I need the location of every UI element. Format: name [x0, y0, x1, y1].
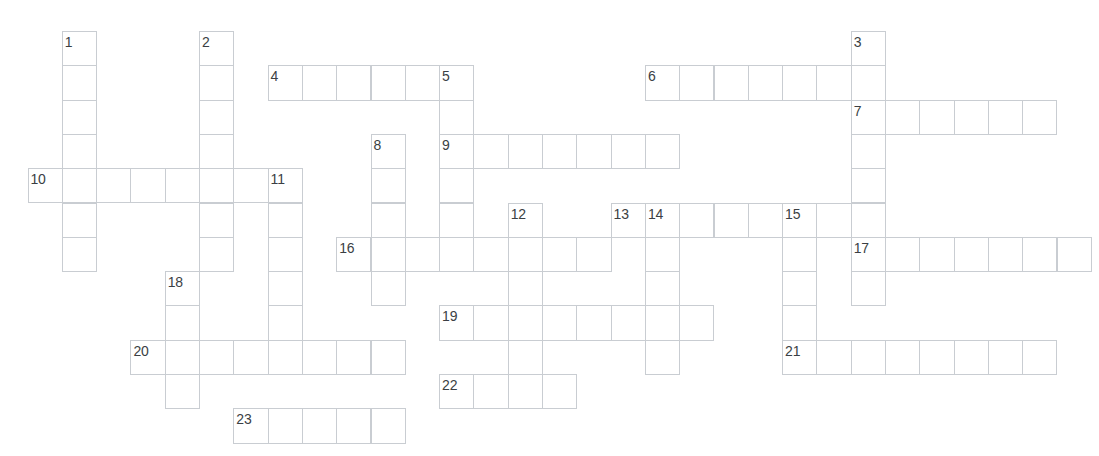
grid-cell[interactable]	[165, 340, 200, 375]
grid-cell[interactable]	[439, 134, 474, 169]
grid-cell[interactable]	[199, 237, 234, 272]
grid-cell[interactable]	[885, 340, 920, 375]
grid-cell[interactable]	[439, 65, 474, 100]
grid-cell[interactable]	[748, 65, 783, 100]
grid-cell[interactable]	[268, 408, 303, 443]
grid-cell[interactable]	[542, 374, 577, 409]
grid-cell[interactable]	[919, 340, 954, 375]
grid-cell[interactable]	[439, 305, 474, 340]
grid-cell[interactable]	[371, 134, 406, 169]
grid-cell[interactable]	[542, 305, 577, 340]
grid-cell[interactable]	[851, 340, 886, 375]
grid-cell[interactable]	[645, 134, 680, 169]
grid-cell[interactable]	[371, 271, 406, 306]
grid-cell[interactable]	[371, 203, 406, 238]
grid-cell[interactable]	[96, 168, 131, 203]
grid-cell[interactable]	[439, 374, 474, 409]
grid-cell[interactable]	[268, 237, 303, 272]
grid-cell[interactable]	[851, 203, 886, 238]
grid-cell[interactable]	[165, 374, 200, 409]
grid-cell[interactable]	[919, 100, 954, 135]
grid-cell[interactable]	[851, 237, 886, 272]
grid-cell[interactable]	[302, 340, 337, 375]
grid-cell[interactable]	[885, 237, 920, 272]
grid-cell[interactable]	[371, 65, 406, 100]
grid-cell[interactable]	[165, 168, 200, 203]
grid-cell[interactable]	[199, 168, 234, 203]
grid-cell[interactable]	[62, 168, 97, 203]
grid-cell[interactable]	[28, 168, 63, 203]
grid-cell[interactable]	[268, 305, 303, 340]
grid-cell[interactable]	[988, 237, 1023, 272]
grid-cell[interactable]	[371, 237, 406, 272]
grid-cell[interactable]	[268, 65, 303, 100]
grid-cell[interactable]	[782, 271, 817, 306]
grid-cell[interactable]	[62, 134, 97, 169]
grid-cell[interactable]	[645, 271, 680, 306]
grid-cell[interactable]	[165, 271, 200, 306]
grid-cell[interactable]	[679, 65, 714, 100]
grid-cell[interactable]	[439, 100, 474, 135]
grid-cell[interactable]	[130, 340, 165, 375]
grid-cell[interactable]	[1022, 340, 1057, 375]
grid-cell[interactable]	[130, 168, 165, 203]
grid-cell[interactable]	[199, 31, 234, 66]
grid-cell[interactable]	[336, 340, 371, 375]
grid-cell[interactable]	[405, 237, 440, 272]
grid-cell[interactable]	[268, 203, 303, 238]
grid-cell[interactable]	[439, 168, 474, 203]
grid-cell[interactable]	[62, 237, 97, 272]
grid-cell[interactable]	[508, 271, 543, 306]
grid-cell[interactable]	[439, 203, 474, 238]
grid-cell[interactable]	[954, 100, 989, 135]
grid-cell[interactable]	[199, 100, 234, 135]
grid-cell[interactable]	[268, 168, 303, 203]
grid-cell[interactable]	[576, 305, 611, 340]
grid-cell[interactable]	[508, 340, 543, 375]
grid-cell[interactable]	[542, 237, 577, 272]
grid-cell[interactable]	[233, 408, 268, 443]
grid-cell[interactable]	[885, 100, 920, 135]
grid-cell[interactable]	[371, 168, 406, 203]
grid-cell[interactable]	[62, 65, 97, 100]
grid-cell[interactable]	[782, 305, 817, 340]
grid-cell[interactable]	[782, 65, 817, 100]
grid-cell[interactable]	[816, 340, 851, 375]
grid-cell[interactable]	[336, 237, 371, 272]
grid-cell[interactable]	[405, 65, 440, 100]
grid-cell[interactable]	[611, 134, 646, 169]
grid-cell[interactable]	[645, 237, 680, 272]
grid-cell[interactable]	[851, 100, 886, 135]
grid-cell[interactable]	[782, 237, 817, 272]
grid-cell[interactable]	[302, 408, 337, 443]
grid-cell[interactable]	[302, 65, 337, 100]
grid-cell[interactable]	[199, 203, 234, 238]
grid-cell[interactable]	[199, 134, 234, 169]
grid-cell[interactable]	[268, 340, 303, 375]
grid-cell[interactable]	[233, 340, 268, 375]
grid-cell[interactable]	[508, 237, 543, 272]
grid-cell[interactable]	[473, 237, 508, 272]
grid-cell[interactable]	[473, 305, 508, 340]
grid-cell[interactable]	[336, 65, 371, 100]
grid-cell[interactable]	[919, 237, 954, 272]
grid-cell[interactable]	[782, 340, 817, 375]
grid-cell[interactable]	[851, 134, 886, 169]
grid-cell[interactable]	[679, 305, 714, 340]
grid-cell[interactable]	[473, 134, 508, 169]
grid-cell[interactable]	[371, 340, 406, 375]
grid-cell[interactable]	[576, 134, 611, 169]
grid-cell[interactable]	[748, 203, 783, 238]
grid-cell[interactable]	[508, 134, 543, 169]
grid-cell[interactable]	[645, 305, 680, 340]
grid-cell[interactable]	[645, 203, 680, 238]
grid-cell[interactable]	[645, 65, 680, 100]
grid-cell[interactable]	[714, 203, 749, 238]
grid-cell[interactable]	[988, 100, 1023, 135]
grid-cell[interactable]	[851, 168, 886, 203]
grid-cell[interactable]	[199, 340, 234, 375]
grid-cell[interactable]	[439, 237, 474, 272]
crossword-grid[interactable]: 1234567891011121314151617181920212223	[0, 0, 1099, 456]
grid-cell[interactable]	[988, 340, 1023, 375]
grid-cell[interactable]	[714, 65, 749, 100]
